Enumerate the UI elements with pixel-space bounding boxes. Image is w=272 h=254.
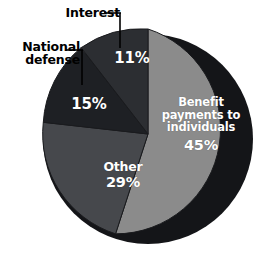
slice-value-benefit-payments: 45% (152, 134, 250, 154)
slice-value-interest: 11% (106, 50, 158, 67)
slice-value-other: 29% (88, 174, 158, 190)
slice-value-national-defense: 15% (62, 96, 116, 113)
callout-label-interest: Interest (46, 6, 120, 19)
slice-label-benefit-payments: Benefit payments to individuals 45% (152, 96, 250, 154)
slice-label-other: Other 29% (88, 160, 158, 190)
slice-label-other-text: Other (103, 159, 142, 174)
slice-label-benefit-line-3: individuals (167, 120, 236, 134)
pie-chart-figure: Interest National defense 11% 15% Other … (0, 0, 272, 254)
callout-label-national-defense: National defense (4, 40, 80, 66)
